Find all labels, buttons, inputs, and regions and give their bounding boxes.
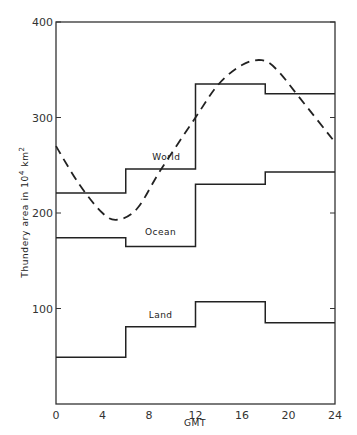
x-tick-label: 20	[282, 409, 296, 422]
x-axis-title: GMT	[184, 418, 206, 428]
series-lines	[56, 60, 335, 357]
series-labels: WorldOceanLand	[145, 152, 181, 320]
step-line-world	[56, 84, 335, 193]
series-label-ocean: Ocean	[145, 227, 176, 237]
y-tick-label: 300	[32, 112, 53, 125]
chart: 100200300400 04812162024 WorldOceanLand …	[0, 0, 357, 435]
y-tick-label: 100	[32, 303, 53, 316]
x-tick-label: 16	[235, 409, 249, 422]
y-axis-title: Thundery area in 104 km2	[18, 146, 30, 278]
y-axis-ticks: 100200300400	[32, 16, 335, 316]
step-line-land	[56, 302, 335, 357]
series-label-land: Land	[149, 310, 173, 320]
series-label-world: World	[152, 152, 180, 162]
y-tick-label: 400	[32, 16, 53, 29]
y-tick-label: 200	[32, 207, 53, 220]
x-tick-label: 24	[328, 409, 342, 422]
x-tick-label: 8	[146, 409, 153, 422]
x-tick-label: 4	[99, 409, 106, 422]
x-tick-label: 0	[53, 409, 60, 422]
